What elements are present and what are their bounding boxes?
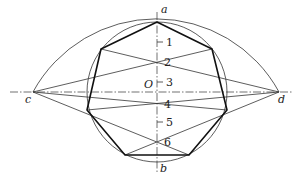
heptagon-construction-diagram: a b c d O 1 2 3 4 5 6 xyxy=(0,0,301,181)
label-d: d xyxy=(278,93,285,106)
division-ticks xyxy=(157,42,163,122)
label-a: a xyxy=(161,3,168,16)
division-number-5: 5 xyxy=(166,116,173,129)
label-O: O xyxy=(144,78,153,91)
rays-from-c xyxy=(33,49,227,155)
division-number-3: 3 xyxy=(166,76,173,89)
rays-from-d xyxy=(87,49,279,155)
label-b: b xyxy=(160,162,167,175)
division-number-4: 4 xyxy=(164,98,171,111)
division-number-2: 2 xyxy=(164,56,171,69)
division-number-6: 6 xyxy=(164,136,171,149)
label-c: c xyxy=(25,93,31,106)
construction-arc xyxy=(33,19,279,92)
division-number-1: 1 xyxy=(166,36,173,49)
